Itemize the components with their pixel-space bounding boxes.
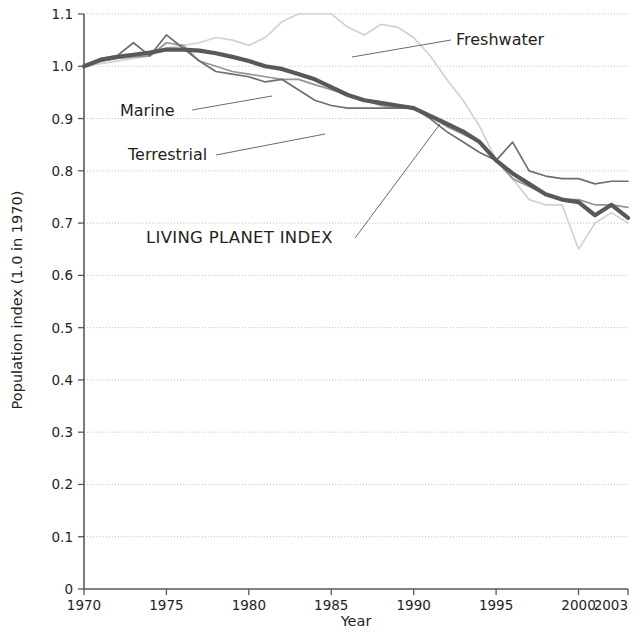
x-tick-label-1990: 1990 (397, 597, 431, 613)
y-tick-label-0.3: 0.3 (52, 424, 73, 440)
x-tick-label-2000: 2000 (561, 597, 595, 613)
leader-line-marine (192, 96, 272, 110)
y-tick-label-0.7: 0.7 (52, 215, 73, 231)
x-tick-label-1975: 1975 (149, 597, 183, 613)
y-tick-label-0.8: 0.8 (52, 163, 73, 179)
x-tick-label-1995: 1995 (479, 597, 513, 613)
gridlines-group (84, 14, 628, 537)
leader-line-terrestrial (216, 134, 325, 155)
series-annotation-terrestrial: Terrestrial (127, 145, 207, 164)
series-annotation-freshwater: Freshwater (456, 30, 545, 49)
y-tick-label-0: 0 (64, 581, 73, 597)
living-planet-index-chart: 00.10.20.30.40.50.60.70.80.91.01.1 19701… (0, 0, 643, 633)
series-line-marine (84, 43, 628, 208)
x-axis-ticks-group: 19701975198019851990199520002003 (67, 589, 628, 613)
x-tick-label-2003: 2003 (594, 597, 628, 613)
y-tick-label-1.1: 1.1 (52, 6, 73, 22)
y-axis-title: Population index (1.0 in 1970) (9, 191, 25, 410)
y-tick-label-0.6: 0.6 (52, 267, 73, 283)
leader-line-freshwater (352, 40, 451, 57)
y-tick-label-0.2: 0.2 (52, 476, 73, 492)
series-line-living-planet-index (84, 50, 628, 218)
data-series-group (84, 14, 628, 249)
y-tick-label-0.5: 0.5 (52, 320, 73, 336)
y-tick-label-1.0: 1.0 (52, 58, 73, 74)
leader-line-living-planet-index (355, 124, 440, 238)
y-tick-label-0.9: 0.9 (52, 111, 73, 127)
x-axis-title: Year (340, 613, 372, 629)
y-tick-label-0.1: 0.1 (52, 529, 73, 545)
y-tick-label-0.4: 0.4 (52, 372, 73, 388)
annotations-group: FreshwaterMarineTerrestrialLIVING PLANET… (120, 30, 545, 247)
y-axis-ticks-group: 00.10.20.30.40.50.60.70.80.91.01.1 (52, 6, 84, 597)
x-tick-label-1980: 1980 (232, 597, 266, 613)
x-tick-label-1970: 1970 (67, 597, 101, 613)
series-annotation-marine: Marine (120, 101, 175, 120)
series-annotation-living-planet-index: LIVING PLANET INDEX (146, 228, 333, 247)
chart-canvas: 00.10.20.30.40.50.60.70.80.91.01.1 19701… (0, 0, 643, 633)
x-tick-label-1985: 1985 (314, 597, 348, 613)
